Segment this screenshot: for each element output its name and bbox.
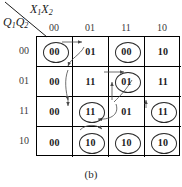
column-header-0: 00 <box>36 22 72 33</box>
cell-value: 10 <box>121 137 132 148</box>
cell-value: 01 <box>121 106 132 117</box>
kmap-cell[interactable]: 00 <box>37 97 73 127</box>
column-header-1: 01 <box>72 22 108 33</box>
kmap-cell[interactable]: 00 <box>37 127 73 157</box>
column-header-3: 10 <box>144 22 180 33</box>
kmap-cell[interactable]: 10 <box>145 37 181 67</box>
kmap-cell[interactable]: 11 <box>73 97 109 127</box>
kmap-grid: 00 01 00 10 00 11 01 11 00 <box>36 36 180 156</box>
column-headers: 00 01 11 10 <box>36 22 180 35</box>
row-header-0: 00 <box>12 36 36 66</box>
cell-value: 10 <box>158 137 169 148</box>
kmap-cell[interactable]: 10 <box>73 127 109 157</box>
kmap-cell[interactable]: 10 <box>109 127 145 157</box>
kmap-cell[interactable]: 00 <box>37 37 73 67</box>
kmap-cell[interactable]: 10 <box>145 127 181 157</box>
cell-value: 11 <box>158 106 168 117</box>
cell-value: 00 <box>49 46 60 57</box>
row-header-3: 10 <box>12 126 36 156</box>
cell-value: 01 <box>121 76 132 87</box>
kmap-cell[interactable]: 11 <box>73 67 109 97</box>
cell-value: 11 <box>158 76 168 87</box>
cell-value: 11 <box>85 106 95 117</box>
kmap-cell[interactable]: 00 <box>37 67 73 97</box>
row-headers: 00 01 11 10 <box>12 36 36 156</box>
kmap-cell[interactable]: 01 <box>109 97 145 127</box>
figure-caption: (b) <box>0 168 182 180</box>
kmap-cell[interactable]: 00 <box>109 37 145 67</box>
karnaugh-map-figure: X1X2 Q1Q2 00 01 11 10 00 01 11 10 00 01 … <box>0 0 182 187</box>
cell-value: 00 <box>49 106 60 117</box>
cell-value: 00 <box>49 137 60 148</box>
cell-value: 01 <box>85 46 96 57</box>
row-variable-label: Q1Q2 <box>3 15 28 30</box>
row-header-2: 11 <box>12 96 36 126</box>
column-variable-label: X1X2 <box>30 2 53 17</box>
cell-value: 00 <box>49 76 60 87</box>
kmap-cell[interactable]: 11 <box>145 67 181 97</box>
cell-value: 10 <box>158 46 169 57</box>
column-header-2: 11 <box>108 22 144 33</box>
cell-value: 00 <box>121 46 132 57</box>
kmap-cell[interactable]: 01 <box>109 67 145 97</box>
row-header-1: 01 <box>12 66 36 96</box>
kmap-cell[interactable]: 11 <box>145 97 181 127</box>
kmap-cell[interactable]: 01 <box>73 37 109 67</box>
cell-value: 10 <box>85 137 96 148</box>
cell-value: 11 <box>85 76 95 87</box>
